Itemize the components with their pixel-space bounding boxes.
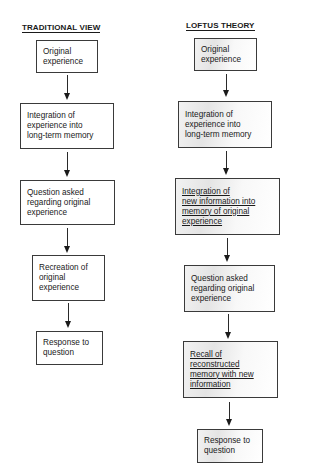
step-text: Response to	[204, 436, 256, 446]
arrow-down-icon	[222, 151, 231, 176]
step-text: reconstructed	[190, 360, 271, 370]
step-text: Response to	[43, 338, 96, 348]
arrow-down-icon	[63, 152, 72, 178]
step-text: regarding original	[27, 198, 108, 208]
step-text: question	[204, 446, 256, 456]
arrow-down-icon	[63, 75, 72, 101]
arrow-down-icon	[63, 228, 72, 254]
traditional-view-title: TRADITIONAL VIEW	[22, 23, 100, 33]
arrow-down-icon	[223, 238, 232, 263]
traditional-step-question: Question asked regarding original experi…	[20, 180, 115, 225]
loftus-step-response: Response to question	[197, 429, 263, 463]
step-text: Integration of	[27, 111, 107, 121]
step-text: experience	[43, 57, 91, 67]
step-text: experience	[182, 217, 273, 227]
loftus-theory-title: LOFTUS THEORY	[186, 21, 255, 31]
arrow-down-icon	[225, 402, 234, 427]
step-text: experience	[201, 55, 250, 65]
step-text: experience	[191, 294, 268, 304]
loftus-step-integration-new-information: Integration of new information into memo…	[175, 178, 280, 235]
loftus-step-original-experience: Original experience	[194, 38, 257, 71]
traditional-step-original-experience: Original experience	[36, 40, 98, 73]
step-text: long-term memory	[185, 130, 265, 140]
step-text: memory of original	[182, 207, 273, 217]
step-text: new information into	[182, 197, 273, 207]
step-text: information	[190, 380, 271, 390]
loftus-step-recall-reconstructed: Recall of reconstructed memory with new …	[183, 341, 278, 398]
step-text: experience	[39, 283, 98, 293]
traditional-step-response: Response to question	[36, 331, 103, 365]
step-text: Integration of	[185, 110, 265, 120]
loftus-step-integration: Integration of experience into long-term…	[178, 101, 272, 148]
traditional-step-recreation: Recreation of original experience	[32, 255, 105, 301]
step-text: memory with new	[190, 370, 271, 380]
step-text: Original	[201, 45, 250, 55]
step-text: experience into	[185, 120, 265, 130]
step-text: Question asked	[191, 274, 268, 284]
step-text: Original	[43, 47, 91, 57]
arrow-down-icon	[222, 74, 231, 98]
step-text: original	[39, 273, 98, 283]
step-text: regarding original	[191, 284, 268, 294]
loftus-step-question: Question asked regarding original experi…	[184, 265, 275, 312]
arrow-down-icon	[64, 303, 73, 329]
step-text: Question asked	[27, 188, 108, 198]
arrow-down-icon	[224, 314, 233, 340]
step-text: experience	[27, 208, 108, 218]
step-text: Recall of	[190, 350, 271, 360]
traditional-step-integration: Integration of experience into long-term…	[20, 103, 114, 149]
step-text: long-term memory	[27, 131, 107, 141]
step-text: question	[43, 348, 96, 358]
step-text: Recreation of	[39, 263, 98, 273]
step-text: experience into	[27, 121, 107, 131]
step-text: Integration of	[182, 187, 273, 197]
